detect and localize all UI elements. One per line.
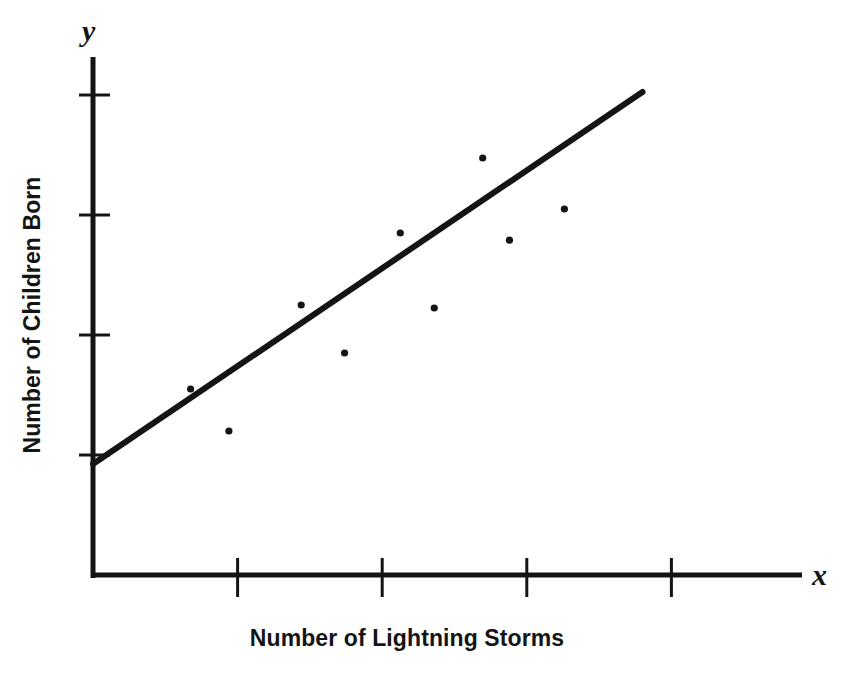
data-point <box>561 205 568 212</box>
regression-trend-line <box>93 92 642 464</box>
data-points-group <box>187 154 568 434</box>
y-axis-title: Number of Children Born <box>14 135 50 495</box>
data-point <box>341 349 348 356</box>
x-axis-variable-label: x <box>812 558 827 592</box>
data-point <box>506 237 513 244</box>
plot-canvas <box>0 0 853 680</box>
data-point <box>225 427 232 434</box>
scatter-plot-figure: y x Number of Children Born Number of Li… <box>0 0 853 680</box>
data-point <box>479 154 486 161</box>
data-point <box>431 304 438 311</box>
axes-group <box>91 57 802 578</box>
data-point <box>298 301 305 308</box>
data-point <box>187 385 194 392</box>
x-axis-title: Number of Lightning Storms <box>197 625 617 652</box>
data-point <box>397 229 404 236</box>
y-axis-variable-label: y <box>82 14 95 48</box>
